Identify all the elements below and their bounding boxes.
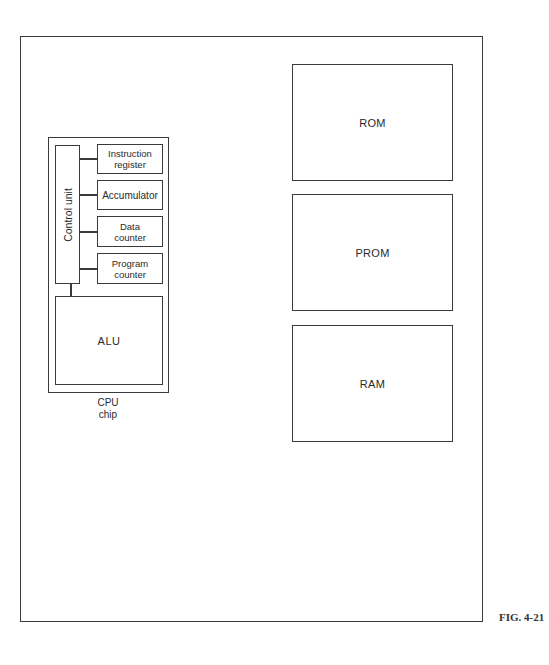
rom-block: ROM — [292, 64, 453, 181]
alu-label: ALU — [98, 335, 121, 347]
cpu-caption: CPU chip — [88, 397, 128, 421]
register-label: counter — [112, 269, 148, 280]
control-unit: Control unit — [55, 145, 80, 284]
register-label: Instruction — [108, 148, 152, 159]
register-label: Accumulator — [102, 190, 158, 201]
alu: ALU — [55, 296, 163, 385]
connector — [80, 231, 97, 233]
register-label: Program — [112, 258, 148, 269]
register-label: Data — [114, 221, 146, 232]
caption-line: chip — [88, 409, 128, 421]
accumulator: Accumulator — [97, 180, 163, 210]
connector — [80, 158, 97, 160]
register-label: counter — [114, 232, 146, 243]
prom-block: PROM — [292, 194, 453, 311]
connector — [80, 268, 97, 270]
caption-line: CPU — [88, 397, 128, 409]
connector — [80, 194, 97, 196]
ram-block: RAM — [292, 325, 453, 442]
data-counter: Datacounter — [97, 216, 163, 247]
program-counter: Programcounter — [97, 253, 163, 284]
prom-label: PROM — [355, 247, 389, 259]
instruction-register: Instructionregister — [97, 144, 163, 174]
figure-label: FIG. 4-21 — [499, 611, 544, 623]
rom-label: ROM — [359, 117, 386, 129]
connector — [70, 284, 72, 296]
ram-label: RAM — [360, 378, 385, 390]
register-label: register — [108, 159, 152, 170]
control-unit-label: Control unit — [62, 188, 74, 242]
